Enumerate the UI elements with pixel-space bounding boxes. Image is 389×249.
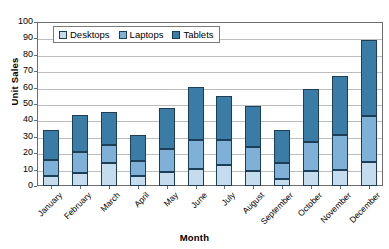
bar-column (216, 22, 232, 186)
bar-segment-tablets (274, 130, 290, 163)
y-axis-tick-mark (34, 71, 37, 72)
x-axis-tick-mark (196, 186, 197, 189)
legend-label: Tablets (183, 29, 213, 40)
y-axis-tick-mark (34, 104, 37, 105)
bar-column (188, 22, 204, 186)
x-axis-tick-mark (51, 186, 52, 189)
gridline (38, 171, 382, 172)
bar-column (303, 22, 319, 186)
bar-column (274, 22, 290, 186)
gridline (38, 138, 382, 139)
legend-swatch-icon (119, 31, 127, 39)
bar-segment-desktops (159, 172, 175, 186)
y-axis-tick-label: 0 (5, 181, 33, 190)
bar-segment-desktops (274, 179, 290, 186)
legend-item-tablets: Tablets (172, 29, 213, 40)
bar-column (159, 22, 175, 186)
bar-segment-desktops (43, 176, 59, 186)
y-axis-tick-label: 30 (5, 132, 33, 141)
y-axis-tick-label: 90 (5, 33, 33, 42)
gridline (38, 121, 382, 122)
bar-segment-desktops (303, 171, 319, 186)
bar-segment-laptops (245, 147, 261, 172)
bar-segment-desktops (188, 169, 204, 186)
legend-swatch-icon (59, 31, 67, 39)
bar-column (332, 22, 348, 186)
gridline (38, 105, 382, 106)
y-axis-tick-label: 20 (5, 148, 33, 157)
y-axis-tick-label: 50 (5, 99, 33, 108)
bar-segment-tablets (303, 89, 319, 141)
y-axis-tick-label: 40 (5, 115, 33, 124)
bar-column (72, 22, 88, 186)
x-axis-tick-mark (138, 186, 139, 189)
chart-legend: DesktopsLaptopsTablets (53, 26, 220, 43)
bar-segment-desktops (245, 171, 261, 186)
legend-item-laptops: Laptops (119, 29, 164, 40)
legend-swatch-icon (172, 31, 180, 39)
bar-segment-tablets (130, 135, 146, 160)
x-axis-title: Month (0, 232, 389, 243)
y-axis-tick-mark (34, 170, 37, 171)
bar-segment-laptops (303, 142, 319, 172)
gridline (38, 89, 382, 90)
bar-column (43, 22, 59, 186)
x-axis-tick-mark (282, 186, 283, 189)
x-axis-tick-mark (224, 186, 225, 189)
bar-segment-tablets (72, 115, 88, 151)
bar-segment-desktops (361, 162, 377, 186)
bar-segment-tablets (159, 108, 175, 149)
bar-segment-tablets (43, 130, 59, 160)
y-axis-tick-label: 80 (5, 50, 33, 59)
bar-segment-laptops (274, 163, 290, 179)
bar-segment-tablets (216, 96, 232, 140)
bar-segment-tablets (361, 40, 377, 116)
legend-item-desktops: Desktops (59, 29, 110, 40)
bar-segment-laptops (101, 145, 117, 163)
gridline (38, 154, 382, 155)
y-axis-tick-mark (34, 22, 37, 23)
y-axis-tick-label: 60 (5, 83, 33, 92)
legend-label: Laptops (130, 29, 164, 40)
bar-segment-desktops (101, 163, 117, 186)
bar-segment-laptops (43, 160, 59, 176)
bar-segment-laptops (72, 152, 88, 173)
y-axis-tick-mark (34, 137, 37, 138)
gridline (38, 56, 382, 57)
y-axis-tick-mark (34, 153, 37, 154)
bar-segment-laptops (188, 140, 204, 169)
y-axis-tick-mark (34, 120, 37, 121)
legend-label: Desktops (70, 29, 110, 40)
bar-segment-laptops (216, 140, 232, 165)
y-axis-tick-label: 100 (5, 17, 33, 26)
stacked-bar-chart: Unit Sales 0102030405060708090100 Januar… (0, 0, 389, 249)
gridline (38, 72, 382, 73)
bar-segment-desktops (216, 165, 232, 186)
bar-column (361, 22, 377, 186)
bar-segment-tablets (245, 106, 261, 147)
bar-segment-desktops (130, 176, 146, 186)
y-axis-tick-label: 10 (5, 165, 33, 174)
bar-segment-laptops (332, 135, 348, 169)
bar-segment-laptops (361, 116, 377, 162)
bar-segment-laptops (130, 161, 146, 177)
bar-segment-tablets (101, 112, 117, 145)
x-axis-tick-mark (167, 186, 168, 189)
y-axis-tick-mark (34, 38, 37, 39)
bar-column (101, 22, 117, 186)
bar-segment-tablets (188, 87, 204, 140)
x-axis-tick-mark (80, 186, 81, 189)
x-axis-tick-mark (253, 186, 254, 189)
x-axis-tick-mark (369, 186, 370, 189)
bar-column (245, 22, 261, 186)
y-axis-tick-mark (34, 55, 37, 56)
y-axis-tick-mark (34, 186, 37, 187)
bar-segment-desktops (72, 173, 88, 186)
bar-column (130, 22, 146, 186)
y-axis-tick-mark (34, 88, 37, 89)
bar-segment-desktops (332, 170, 348, 186)
x-axis-tick-mark (109, 186, 110, 189)
bar-segment-laptops (159, 149, 175, 172)
y-axis-tick-label: 70 (5, 66, 33, 75)
bar-segment-tablets (332, 76, 348, 135)
